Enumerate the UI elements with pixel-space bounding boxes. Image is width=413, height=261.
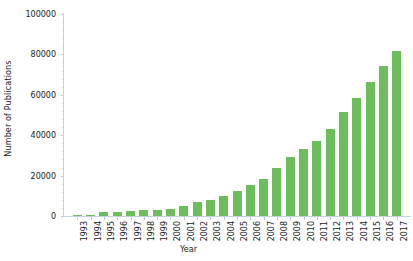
x-tick-label: 1996 (120, 221, 129, 241)
x-tick-label: 2012 (333, 221, 342, 241)
x-tick-mark (264, 217, 265, 220)
bar (126, 211, 135, 216)
bar (99, 212, 108, 216)
bar (379, 66, 388, 216)
x-tick-mark (397, 217, 398, 220)
bar (73, 215, 82, 216)
bar (272, 168, 281, 216)
x-tick-label: 2016 (386, 221, 395, 241)
bar (339, 112, 348, 216)
bar (179, 206, 188, 216)
x-tick-label: 2005 (240, 221, 249, 241)
bar (166, 209, 175, 216)
x-tick-mark (104, 217, 105, 220)
bar (259, 179, 268, 216)
x-tick-mark (277, 217, 278, 220)
x-tick-mark (357, 217, 358, 220)
bar (312, 141, 321, 216)
y-tick-label: 60000 (31, 90, 56, 99)
x-tick-label: 2015 (373, 221, 382, 241)
x-tick-label: 2006 (253, 221, 262, 241)
bar (139, 210, 148, 216)
x-tick-mark (343, 217, 344, 220)
x-tick-mark (117, 217, 118, 220)
x-tick-label: 2014 (360, 221, 369, 241)
x-tick-label: 2004 (227, 221, 236, 241)
y-tick-label: 0 (51, 212, 56, 221)
x-tick-label: 1993 (80, 221, 89, 241)
x-tick-label: 1997 (134, 221, 143, 241)
bar (206, 200, 215, 216)
x-tick-mark (237, 217, 238, 220)
x-tick-label: 1998 (147, 221, 156, 241)
y-axis-title: Number of Publications (0, 0, 16, 216)
bar (286, 157, 295, 216)
x-tick-label: 2017 (400, 221, 409, 241)
bar (113, 212, 122, 216)
bar (86, 215, 95, 216)
x-tick-mark (184, 217, 185, 220)
bar (299, 149, 308, 216)
x-tick-mark (317, 217, 318, 220)
bar (233, 191, 242, 216)
x-tick-mark (144, 217, 145, 220)
publications-per-year-bar-chart: Number of Publications 02000040000600008… (0, 0, 413, 261)
y-tick-label: 100000 (25, 10, 56, 19)
x-tick-mark (370, 217, 371, 220)
x-tick-label: 2009 (293, 221, 302, 241)
x-tick-mark (91, 217, 92, 220)
x-tick-label: 1995 (107, 221, 116, 241)
x-tick-label: 1994 (94, 221, 103, 241)
bar (366, 82, 375, 216)
bar (392, 51, 401, 216)
x-tick-mark (170, 217, 171, 220)
y-tick-label: 80000 (31, 50, 56, 59)
x-tick-mark (330, 217, 331, 220)
y-tick-label: 40000 (31, 131, 56, 140)
x-tick-mark (131, 217, 132, 220)
x-tick-mark (290, 217, 291, 220)
bar (193, 202, 202, 216)
y-axis-tick-labels: 020000400006000080000100000 (16, 0, 60, 230)
bar (326, 129, 335, 216)
bar (153, 210, 162, 216)
x-tick-label: 2008 (280, 221, 289, 241)
x-tick-label: 2002 (200, 221, 209, 241)
x-tick-mark (383, 217, 384, 220)
bar-series (64, 14, 410, 216)
bar (246, 185, 255, 216)
x-tick-label: 1999 (160, 221, 169, 241)
bar (219, 196, 228, 216)
x-tick-mark (210, 217, 211, 220)
x-tick-label: 2001 (187, 221, 196, 241)
y-tick-label: 20000 (31, 171, 56, 180)
x-tick-label: 2000 (173, 221, 182, 241)
bar (352, 98, 361, 216)
x-tick-mark (77, 217, 78, 220)
x-tick-label: 2010 (307, 221, 316, 241)
plot-area (64, 14, 410, 216)
x-tick-mark (224, 217, 225, 220)
x-tick-mark (157, 217, 158, 220)
x-tick-mark (197, 217, 198, 220)
x-axis-title: Year (180, 245, 197, 254)
x-tick-label: 2007 (267, 221, 276, 241)
x-tick-label: 2003 (213, 221, 222, 241)
y-axis-title-label: Number of Publications (4, 60, 13, 156)
x-tick-mark (250, 217, 251, 220)
x-tick-label: 2011 (320, 221, 329, 241)
x-tick-label: 2013 (346, 221, 355, 241)
x-tick-mark (304, 217, 305, 220)
x-axis-tick-labels: 1993199419951996199719981999200020012002… (64, 217, 410, 245)
